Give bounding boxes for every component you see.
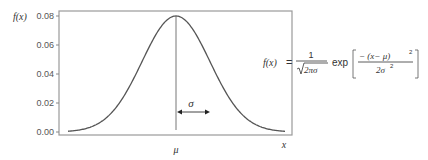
exp-denominator-sup: 2 [390,63,394,69]
exp-numerator-sup: 2 [409,49,413,55]
y-tick-label: 0.04 [36,69,54,79]
left-bracket-icon [353,50,356,78]
sigma-arrow [177,110,210,115]
mu-label: μ [172,144,178,155]
formula-numerator: 1 [308,50,313,60]
formula-lhs: f(x) [263,57,278,69]
exp-denominator: 2σ [376,65,386,75]
y-tick-label: 0.08 [36,11,54,21]
y-axis-label: f(x) [13,11,28,23]
formula-equals: = [286,56,292,68]
y-tick-label: 0.02 [36,98,54,108]
chart-svg: 0.08 0.06 0.04 0.02 0.00 f(x) σ μ x f(x)… [0,0,428,160]
formula-exp: exp [332,57,349,68]
x-axis-label: x [281,139,287,150]
right-bracket-icon [415,50,418,78]
y-tick-label: 0.00 [36,127,54,137]
pdf-formula: f(x) = 1 2πσ exp − (x− μ) 2 2σ 2 [263,49,418,78]
exp-numerator: − (x− μ) [359,51,390,61]
formula-denominator: 2πσ [304,65,318,75]
sigma-label: σ [188,97,194,109]
y-tick-label: 0.06 [36,40,54,50]
